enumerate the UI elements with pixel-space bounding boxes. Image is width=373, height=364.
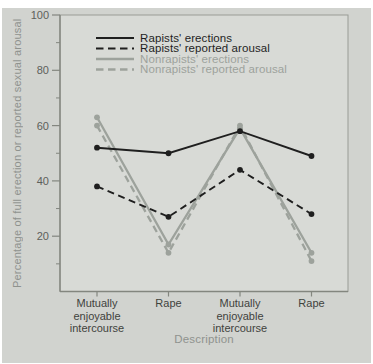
y-tick-label: 40 (37, 175, 49, 187)
y-tick-label: 60 (37, 120, 49, 132)
data-point (237, 128, 243, 134)
category-label: Mutuallyenjoyableintercourse (70, 297, 124, 334)
data-point (309, 153, 315, 159)
data-point (166, 250, 172, 256)
y-tick-label: 80 (37, 64, 49, 76)
category-label: Mutuallyenjoyableintercourse (213, 297, 267, 334)
data-point (94, 184, 100, 190)
data-point (309, 258, 315, 264)
data-point (309, 211, 315, 217)
y-axis-title: Percentage of full erection or reported … (9, 14, 25, 293)
legend-label: Nonrapists' reported arousal (140, 63, 287, 75)
data-point (94, 114, 100, 120)
data-point (166, 242, 172, 248)
y-tick-label: 20 (37, 230, 49, 242)
x-axis-title: Description (60, 333, 348, 345)
data-point (237, 167, 243, 173)
data-point (94, 145, 100, 151)
data-point (94, 123, 100, 129)
data-point (237, 123, 243, 129)
category-label: Rape (155, 297, 181, 309)
data-point (166, 150, 172, 156)
y-tick-label: 100 (31, 9, 49, 21)
chart-canvas: 20406080100MutuallyenjoyableintercourseR… (0, 0, 373, 364)
category-label: Rape (298, 297, 324, 309)
data-point (166, 214, 172, 220)
